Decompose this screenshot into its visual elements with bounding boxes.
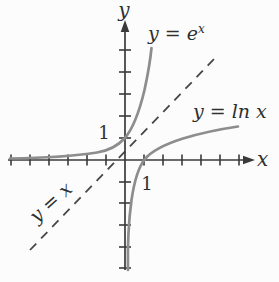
x-axis-arrow-icon	[243, 156, 255, 165]
plot-canvas: y x y = ex y = ln x y = x 1 1	[0, 0, 279, 282]
ln-curve-label: y = ln x	[192, 100, 267, 122]
exp-curve-label: y = ex	[147, 22, 205, 44]
identity-line-label: y = x	[24, 177, 76, 227]
function-plot: y x y = ex y = ln x y = x 1 1	[0, 0, 279, 282]
y-unit-label: 1	[98, 122, 109, 143]
y-axis-label: y	[117, 0, 130, 22]
exp-curve	[10, 48, 152, 159]
identity-line	[30, 55, 218, 250]
x-axis-label: x	[257, 147, 268, 171]
x-unit-label: 1	[141, 173, 152, 194]
ln-curve	[128, 127, 238, 271]
